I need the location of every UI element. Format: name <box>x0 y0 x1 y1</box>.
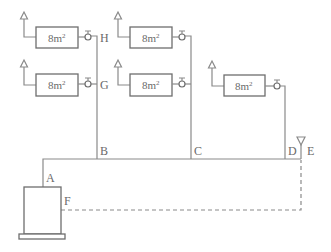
node-label-h: H <box>100 31 109 45</box>
riser-b <box>91 36 97 159</box>
air-vent-icon <box>115 60 122 67</box>
valve-icon <box>85 81 91 87</box>
valve-handle <box>85 31 91 34</box>
vent-e-icon <box>297 137 305 145</box>
valve-handle <box>85 78 91 81</box>
node-label-e: E <box>307 144 314 158</box>
node-label-g: G <box>100 78 109 92</box>
air-vent-icon <box>209 61 216 68</box>
air-vent-pipe <box>24 66 36 85</box>
node-label-f: F <box>64 194 71 208</box>
node-label-d: D <box>288 144 297 158</box>
valve-handle <box>274 80 280 83</box>
node-label-b: B <box>100 144 108 158</box>
air-vent-icon <box>21 12 28 19</box>
riser-c <box>185 36 191 159</box>
radiator-r2: 8m2 <box>21 60 92 96</box>
main-supply-pipe <box>43 159 301 187</box>
air-vent-pipe <box>118 66 130 85</box>
return-pipe <box>61 160 301 210</box>
radiator-r1: 8m2 <box>21 12 92 48</box>
valve-icon <box>85 34 91 40</box>
riser-d <box>280 86 285 159</box>
heating-system-diagram: 8m2 8m2 8m2 8m2 8m2 <box>0 0 331 252</box>
air-vent-pipe <box>24 18 36 37</box>
radiator-r5: 8m2 <box>209 61 281 96</box>
air-vent-icon <box>21 60 28 67</box>
radiator-r4: 8m2 <box>115 60 186 96</box>
valve-handle <box>179 78 185 81</box>
boiler <box>24 187 61 234</box>
boiler-base <box>19 234 65 239</box>
radiator-r3: 8m2 <box>115 12 186 48</box>
air-vent-pipe <box>118 18 130 37</box>
valve-icon <box>274 83 280 89</box>
air-vent-pipe <box>212 68 224 86</box>
node-label-c: C <box>194 144 202 158</box>
valve-handle <box>179 31 185 34</box>
valve-icon <box>179 81 185 87</box>
air-vent-icon <box>115 12 122 19</box>
node-label-a: A <box>46 171 55 185</box>
valve-icon <box>179 34 185 40</box>
